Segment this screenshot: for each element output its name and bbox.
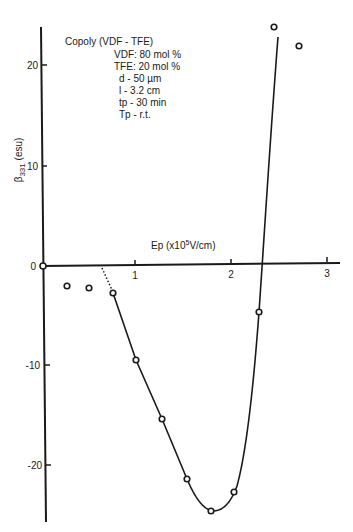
annotation-poling-time: tp - 30 min (119, 97, 166, 108)
x-axis (42, 263, 340, 266)
x-tick-labels: 1 2 3 (132, 268, 330, 281)
x-tick-3: 3 (324, 268, 330, 279)
data-point (296, 43, 302, 49)
annotation-tfe: TFE: 20 mol % (114, 61, 180, 72)
annotation-block: Copoly (VDF - TFE) VDF: 80 mol % TFE: 20… (65, 36, 181, 120)
annotation-thickness: d - 50 µm (119, 73, 161, 84)
annotation-title: Copoly (VDF - TFE) (65, 36, 153, 47)
data-point (271, 24, 277, 30)
annotation-length: l - 3.2 cm (119, 85, 160, 96)
data-point (86, 285, 92, 291)
data-point (159, 416, 165, 422)
y-tick-0: 0 (30, 261, 36, 272)
data-point (184, 476, 190, 482)
y-tick-20: 20 (27, 60, 39, 71)
y-tick-neg10: -10 (26, 360, 41, 371)
chart-canvas: 20 10 0 -10 -20 1 2 3 Ep (x105V/cm) β331… (0, 0, 353, 532)
x-axis-label: Ep (x105V/cm) (151, 239, 215, 251)
data-point (231, 489, 237, 495)
annotation-poling-temp: Tp - r.t. (119, 109, 151, 120)
data-point (256, 309, 262, 315)
data-point (64, 283, 70, 289)
data-point (133, 357, 139, 363)
x-tick-1: 1 (132, 270, 138, 281)
annotation-vdf: VDF: 80 mol % (114, 49, 181, 60)
y-tick-10: 10 (27, 161, 39, 172)
x-tick-2: 2 (228, 269, 234, 280)
data-point (110, 290, 116, 296)
data-point (208, 508, 214, 514)
extrapolation-line (102, 268, 112, 290)
y-axis-label: β331 (esu) (13, 138, 27, 183)
y-tick-neg20: -20 (28, 460, 43, 471)
y-axis (41, 27, 46, 522)
data-point (40, 263, 46, 269)
